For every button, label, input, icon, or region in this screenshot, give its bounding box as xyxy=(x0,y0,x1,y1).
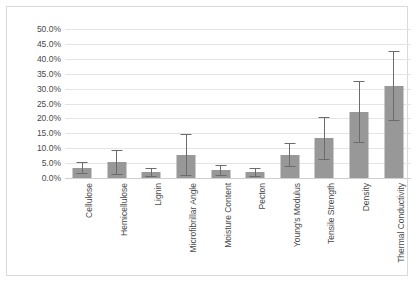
error-bar-cap-top xyxy=(111,150,122,151)
bar-group xyxy=(65,29,100,178)
error-bar xyxy=(146,168,157,177)
error-bar xyxy=(284,143,295,167)
error-bar-cap-top xyxy=(354,81,365,82)
x-axis-label-slot: Density xyxy=(342,181,377,284)
error-bar xyxy=(215,165,226,176)
bar-group xyxy=(342,29,377,178)
error-bar-cap-top xyxy=(319,117,330,118)
x-axis-tick-label: Microfibrillar Angle xyxy=(189,183,198,252)
error-bar-cap-top xyxy=(388,51,399,52)
error-bar-cap-bottom xyxy=(284,166,295,167)
x-axis-label-slot: Lignin xyxy=(134,181,169,284)
bar-group xyxy=(134,29,169,178)
bar-group xyxy=(273,29,308,178)
gridline xyxy=(65,178,411,179)
bar-group xyxy=(238,29,273,178)
y-axis-tick-label: 50.0% xyxy=(9,25,61,34)
y-axis-tick-label: 25.0% xyxy=(9,99,61,108)
x-axis-tick-label: Density xyxy=(362,183,371,211)
error-bar xyxy=(319,117,330,160)
y-axis-tick-label: 45.0% xyxy=(9,40,61,49)
x-axis-tick-label: Hemicellulose xyxy=(120,183,129,236)
y-axis-tick-label: 40.0% xyxy=(9,55,61,64)
error-bar-line xyxy=(116,150,117,175)
x-axis-label-slot: Microfibrillar Angle xyxy=(169,181,204,284)
bar-group xyxy=(203,29,238,178)
x-axis-tick-label: Young's Modulus xyxy=(293,183,302,247)
error-bar-cap-top xyxy=(77,162,88,163)
y-axis-tick-label: 20.0% xyxy=(9,114,61,123)
error-bar-line xyxy=(393,51,394,121)
x-axis-tick-label: Moisture Content xyxy=(224,183,233,248)
bar-group xyxy=(169,29,204,178)
bar-group xyxy=(376,29,411,178)
x-axis-tick-label: Cellulose xyxy=(85,183,94,218)
error-bar-cap-bottom xyxy=(181,175,192,176)
y-axis-tick-label: 5.0% xyxy=(9,159,61,168)
error-bar xyxy=(181,134,192,176)
error-bar-cap-top xyxy=(250,168,261,169)
y-axis-tick-label: 0.0% xyxy=(9,174,61,183)
x-axis-label-slot: Thermal Conductivity xyxy=(376,181,411,284)
error-bar-cap-bottom xyxy=(111,174,122,175)
error-bar-cap-top xyxy=(284,143,295,144)
x-axis-label-slot: Cellulose xyxy=(65,181,100,284)
error-bar xyxy=(354,81,365,142)
x-axis-label-slot: Pecton xyxy=(238,181,273,284)
error-bar-cap-top xyxy=(146,168,157,169)
x-axis-tick-label: Tensile Strength xyxy=(327,183,336,244)
error-bar-cap-bottom xyxy=(77,173,88,174)
y-axis-tick-label: 30.0% xyxy=(9,84,61,93)
x-axis-label-slot: Moisture Content xyxy=(203,181,238,284)
x-axis-tick-label: Pecton xyxy=(258,183,267,209)
y-axis: 50.0%45.0%40.0%35.0%30.0%25.0%20.0%15.0%… xyxy=(7,29,61,178)
error-bar-cap-bottom xyxy=(250,176,261,177)
bar-group xyxy=(100,29,135,178)
chart-frame: 50.0%45.0%40.0%35.0%30.0%25.0%20.0%15.0%… xyxy=(6,6,408,276)
x-axis-label-slot: Hemicellulose xyxy=(100,181,135,284)
error-bar-cap-bottom xyxy=(146,176,157,177)
plot-area xyxy=(65,29,411,178)
x-axis-tick-label: Thermal Conductivity xyxy=(397,183,406,263)
error-bar-line xyxy=(359,81,360,142)
error-bar-cap-bottom xyxy=(354,142,365,143)
error-bar-line xyxy=(289,143,290,167)
x-axis-tick-label: Lignin xyxy=(154,183,163,206)
bar-group xyxy=(307,29,342,178)
y-axis-tick-label: 35.0% xyxy=(9,69,61,78)
x-axis: CelluloseHemicelluloseLigninMicrofibrill… xyxy=(65,181,411,284)
error-bar-cap-bottom xyxy=(319,159,330,160)
x-axis-label-slot: Young's Modulus xyxy=(273,181,308,284)
error-bar xyxy=(77,162,88,175)
error-bar-cap-top xyxy=(215,165,226,166)
y-axis-tick-label: 10.0% xyxy=(9,144,61,153)
error-bar xyxy=(250,168,261,177)
x-axis-label-slot: Tensile Strength xyxy=(307,181,342,284)
error-bar-cap-bottom xyxy=(388,120,399,121)
error-bar-line xyxy=(186,134,187,176)
error-bar xyxy=(388,51,399,121)
y-axis-tick-label: 15.0% xyxy=(9,129,61,138)
error-bar-line xyxy=(324,117,325,160)
error-bar xyxy=(111,150,122,175)
error-bar-cap-bottom xyxy=(215,175,226,176)
error-bar-cap-top xyxy=(181,134,192,135)
